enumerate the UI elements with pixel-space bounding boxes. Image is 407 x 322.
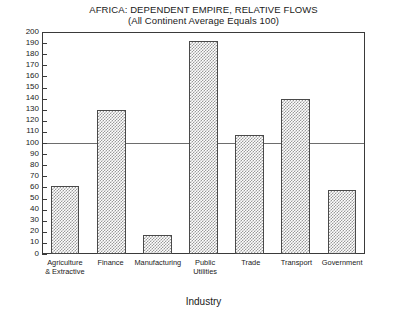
y-axis-tick-label: 130 xyxy=(26,104,39,113)
y-axis-tick-label: 170 xyxy=(26,60,39,69)
y-axis-tick-mark xyxy=(42,43,47,44)
bar-finance[interactable] xyxy=(97,110,126,254)
x-axis-title: Industry xyxy=(0,296,407,307)
bar-transport[interactable] xyxy=(281,99,310,254)
y-axis-tick-label: 0 xyxy=(35,249,39,258)
y-axis-tick-mark xyxy=(42,88,47,89)
y-axis-tick-mark xyxy=(42,32,47,33)
y-axis-tick-label: 80 xyxy=(30,160,39,169)
y-axis-tick-mark xyxy=(42,54,47,55)
y-axis-tick-label: 40 xyxy=(30,204,39,213)
x-axis-label-line: Manufacturing xyxy=(134,258,181,267)
y-axis-tick-mark xyxy=(42,176,47,177)
y-axis-tick-mark xyxy=(42,165,47,166)
bar-government[interactable] xyxy=(328,190,357,254)
y-axis-tick-mark xyxy=(42,99,47,100)
x-axis-label-line: Government xyxy=(320,258,364,267)
y-axis-tick-label: 10 xyxy=(30,237,39,246)
y-axis-tick-label: 100 xyxy=(26,138,39,147)
x-axis-label-government: Government xyxy=(319,258,365,276)
y-axis-tick-mark xyxy=(42,187,47,188)
y-axis-tick-label: 90 xyxy=(30,149,39,158)
y-axis-tick-label: 120 xyxy=(26,115,39,124)
y-axis-tick-label: 110 xyxy=(26,126,39,135)
y-axis-tick-mark xyxy=(42,210,47,211)
x-axis-label-line: & Extractive xyxy=(43,267,87,276)
bar-trade[interactable] xyxy=(235,135,264,254)
x-axis-label-line: Utilities xyxy=(183,267,227,276)
y-axis-tick-label: 160 xyxy=(26,71,39,80)
y-axis-tick-mark xyxy=(42,243,47,244)
y-axis-tick-label: 50 xyxy=(30,193,39,202)
x-axis-label-agriculture-extractive: Agriculture& Extractive xyxy=(42,258,88,276)
x-axis-category-labels: Agriculture& ExtractiveFinanceManufactur… xyxy=(42,258,365,276)
chart-title: AFRICA: DEPENDENT EMPIRE, RELATIVE FLOWS xyxy=(0,4,407,15)
bar-agriculture-extractive[interactable] xyxy=(51,186,80,254)
x-axis-label-line: Finance xyxy=(89,258,133,267)
x-axis-label-line: Agriculture xyxy=(43,258,87,267)
x-axis-label-line: Public xyxy=(183,258,227,267)
y-axis-tick-label: 150 xyxy=(26,82,39,91)
y-axis-tick-label: 20 xyxy=(30,226,39,235)
y-axis-tick-mark xyxy=(42,254,47,255)
y-axis-tick-label: 140 xyxy=(26,93,39,102)
y-axis-tick-mark xyxy=(42,199,47,200)
y-axis-tick-mark xyxy=(42,110,47,111)
y-axis-tick-mark xyxy=(42,76,47,77)
bar-public-utilities[interactable] xyxy=(189,41,218,254)
y-axis-tick-mark xyxy=(42,132,47,133)
y-axis-tick-label: 30 xyxy=(30,215,39,224)
y-axis-tick-label: 180 xyxy=(26,49,39,58)
y-axis-tick-mark xyxy=(42,154,47,155)
y-axis-tick-mark xyxy=(42,232,47,233)
y-axis-tick-label: 190 xyxy=(26,38,39,47)
y-axis-tick-mark xyxy=(42,121,47,122)
x-axis-label-transport: Transport xyxy=(274,258,320,276)
x-axis-label-finance: Finance xyxy=(88,258,134,276)
y-axis-tick-mark xyxy=(42,221,47,222)
x-axis-label-line: Transport xyxy=(275,258,319,267)
y-axis-tick-label: 200 xyxy=(26,27,39,36)
y-axis-tick-mark xyxy=(42,143,47,144)
y-axis-tick-mark xyxy=(42,65,47,66)
chart-figure: AFRICA: DEPENDENT EMPIRE, RELATIVE FLOWS… xyxy=(0,0,407,322)
x-axis-label-public-utilities: PublicUtilities xyxy=(182,258,228,276)
y-axis-tick-label: 60 xyxy=(30,182,39,191)
x-axis-label-line: Trade xyxy=(229,258,273,267)
x-axis-label-trade: Trade xyxy=(228,258,274,276)
y-axis-tick-label: 70 xyxy=(30,171,39,180)
chart-title-block: AFRICA: DEPENDENT EMPIRE, RELATIVE FLOWS… xyxy=(0,4,407,26)
bar-manufacturing[interactable] xyxy=(143,235,172,254)
x-axis-label-manufacturing: Manufacturing xyxy=(133,258,182,276)
chart-subtitle: (All Continent Average Equals 100) xyxy=(0,15,407,26)
